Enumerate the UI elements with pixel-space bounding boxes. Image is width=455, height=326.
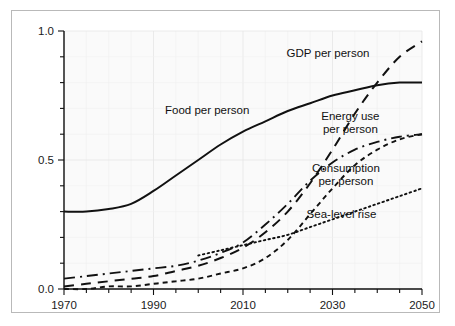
y-tick-label: 1.0 (38, 25, 54, 37)
series-annotation: per person (318, 175, 373, 187)
series-annotation: Consumption (312, 162, 380, 174)
x-tick-label: 2050 (409, 299, 435, 311)
y-tick-label: 0.5 (38, 154, 54, 166)
x-tick-label: 1970 (51, 299, 77, 311)
chart-figure: 0.00.51.019701990201020302050 GDP per pe… (11, 10, 440, 313)
series-annotation: Food per person (165, 104, 249, 116)
series-annotation: per person (323, 123, 378, 135)
series-annotation: Sea-level rise (307, 208, 377, 220)
y-tick-label: 0.0 (38, 283, 54, 295)
x-tick-label: 2010 (230, 299, 256, 311)
line-chart-svg: 0.00.51.019701990201020302050 GDP per pe… (12, 11, 439, 312)
series-annotation: GDP per person (287, 47, 370, 59)
x-tick-label: 1990 (141, 299, 167, 311)
x-tick-label: 2030 (320, 299, 346, 311)
series-annotation: Energy use (321, 110, 379, 122)
